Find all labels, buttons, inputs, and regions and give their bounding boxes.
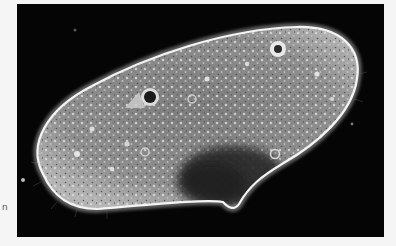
contractile-vacuole-anterior [141, 88, 159, 106]
paramecium-image [17, 4, 384, 237]
debris-particle [351, 123, 354, 126]
figure: n [0, 0, 396, 246]
debris-particle [21, 178, 25, 182]
paramecium-micrograph [17, 4, 384, 237]
caption-fragment: n [2, 202, 8, 212]
debris-particle [74, 29, 77, 32]
contractile-vacuole-posterior [270, 41, 286, 57]
